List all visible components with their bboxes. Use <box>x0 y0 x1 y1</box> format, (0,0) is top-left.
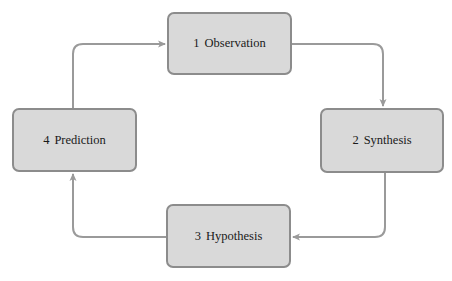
node-number: 4 <box>43 133 49 148</box>
arrow-hypothesis-to-prediction <box>73 174 166 237</box>
node-prediction: 4 Prediction <box>12 108 137 172</box>
arrow-observation-to-synthesis <box>292 44 383 106</box>
node-label: Observation <box>205 36 266 51</box>
node-number: 1 <box>193 36 199 51</box>
node-number: 3 <box>195 229 201 244</box>
node-synthesis: 2 Synthesis <box>320 108 444 173</box>
node-label: Synthesis <box>364 133 412 148</box>
cycle-diagram: 1 Observation 2 Synthesis 3 Hypothesis 4… <box>0 0 452 281</box>
node-label: Hypothesis <box>206 229 262 244</box>
node-observation: 1 Observation <box>167 12 292 75</box>
node-label: Prediction <box>54 133 105 148</box>
arrow-synthesis-to-hypothesis <box>293 173 385 237</box>
arrow-prediction-to-observation <box>73 44 165 108</box>
node-hypothesis: 3 Hypothesis <box>166 204 291 268</box>
node-number: 2 <box>352 133 358 148</box>
